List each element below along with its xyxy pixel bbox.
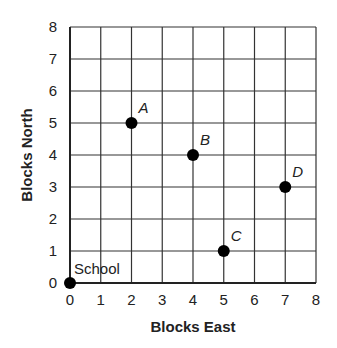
x-tick-label: 2	[127, 291, 135, 308]
coordinate-grid-chart: 012345678 012345678 SchoolABCD Blocks Ea…	[0, 0, 337, 348]
x-axis-label: Blocks East	[150, 318, 235, 335]
y-tick-label: 8	[49, 18, 57, 35]
y-tick-label: 7	[49, 50, 57, 67]
point-b	[187, 149, 199, 161]
data-points: SchoolABCD	[64, 99, 303, 289]
y-tick-label: 6	[49, 82, 57, 99]
point-label: A	[138, 99, 149, 116]
point-school	[64, 277, 76, 289]
point-label: School	[74, 260, 120, 277]
x-axis-ticks: 012345678	[66, 291, 320, 308]
point-label: B	[200, 131, 210, 148]
point-label: C	[231, 227, 242, 244]
y-tick-label: 1	[49, 242, 57, 259]
y-tick-label: 4	[49, 146, 57, 163]
x-tick-label: 8	[312, 291, 320, 308]
y-axis-label: Blocks North	[18, 108, 35, 201]
y-tick-label: 3	[49, 178, 57, 195]
point-c	[218, 245, 230, 257]
y-tick-label: 5	[49, 114, 57, 131]
y-axis-ticks: 012345678	[49, 18, 57, 291]
y-tick-label: 2	[49, 210, 57, 227]
y-tick-label: 0	[49, 274, 57, 291]
x-tick-label: 6	[250, 291, 258, 308]
x-tick-label: 7	[281, 291, 289, 308]
point-label: D	[292, 163, 303, 180]
point-d	[279, 181, 291, 193]
x-tick-label: 3	[158, 291, 166, 308]
x-tick-label: 5	[220, 291, 228, 308]
point-a	[126, 117, 138, 129]
x-tick-label: 1	[97, 291, 105, 308]
x-tick-label: 4	[189, 291, 197, 308]
x-tick-label: 0	[66, 291, 74, 308]
